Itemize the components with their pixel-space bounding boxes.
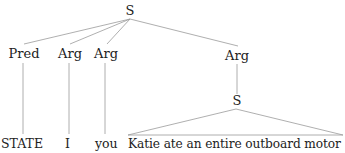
leaf-embedded-sentence: Katie ate an entire outboard motor xyxy=(128,138,341,150)
edge-s-arg2 xyxy=(107,19,130,44)
node-embedded-s: S xyxy=(233,94,242,107)
node-arg-3: Arg xyxy=(225,49,249,62)
edge-s-pred xyxy=(24,19,130,44)
triangle-edges xyxy=(128,109,343,135)
edge-s-arg1 xyxy=(70,19,130,44)
node-arg-2: Arg xyxy=(94,47,118,60)
edge-s-arg3 xyxy=(130,19,238,46)
leaf-state: STATE xyxy=(1,138,43,151)
tree-edges xyxy=(0,0,345,153)
leaf-you: you xyxy=(95,138,118,151)
node-pred: Pred xyxy=(9,47,40,60)
node-root-s: S xyxy=(126,4,135,17)
node-arg-1: Arg xyxy=(58,47,82,60)
leaf-i: I xyxy=(65,138,70,151)
